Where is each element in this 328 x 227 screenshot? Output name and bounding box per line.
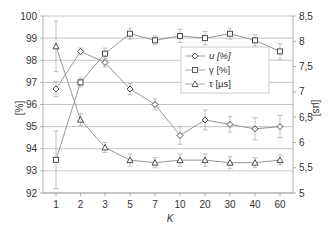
axes: 929394959697989910055,566,577,588,512357…: [20, 11, 313, 211]
x-tick-label: 3: [102, 199, 108, 210]
y-tick-label: 93: [26, 165, 38, 176]
triangle-marker-icon: [53, 43, 59, 49]
square-marker-icon: [128, 31, 133, 36]
y2-tick-label: 5,5: [299, 162, 313, 173]
diamond-marker-icon: [78, 48, 84, 54]
square-marker-icon: [178, 33, 183, 38]
diamond-marker-icon: [202, 117, 208, 123]
y-tick-label: 97: [26, 77, 38, 88]
y-tick-label: 98: [26, 55, 38, 66]
x-tick-label: 20: [199, 199, 211, 210]
x-tick-label: 30: [224, 199, 236, 210]
y-tick-label: 100: [20, 11, 37, 22]
diamond-marker-icon: [277, 124, 283, 130]
series-triangle: [53, 21, 283, 169]
y2-tick-label: 8: [299, 36, 305, 47]
legend-label-gamma: γ [%]: [209, 64, 230, 75]
square-marker-icon: [103, 51, 108, 56]
triangle-marker-icon: [127, 157, 133, 163]
x-tick-label: 5: [127, 199, 133, 210]
x-tick-label: 60: [274, 199, 286, 210]
x-tick-label: 10: [174, 199, 186, 210]
x-tick-label: 40: [249, 199, 261, 210]
legend-label-u: u [%]: [209, 50, 231, 61]
square-marker-icon: [278, 49, 283, 54]
y2-tick-label: 6: [299, 137, 305, 148]
x-axis-label: K: [167, 213, 175, 224]
y2-tick-label: 7,5: [299, 61, 313, 72]
square-marker-icon: [228, 31, 233, 36]
square-marker-icon: [253, 38, 258, 43]
square-marker-icon: [54, 157, 59, 162]
triangle-marker-icon: [78, 117, 84, 123]
y-tick-label: 96: [26, 99, 38, 110]
square-marker-icon: [78, 80, 83, 85]
y-tick-label: 95: [26, 121, 38, 132]
chart: 929394959697989910055,566,577,588,512357…: [0, 0, 328, 227]
y-tick-label: 92: [26, 188, 38, 199]
legend: u [%] γ [%] τ [µs]: [181, 47, 269, 93]
y-tick-label: 99: [26, 33, 38, 44]
diamond-marker-icon: [53, 86, 59, 92]
y-axis-label: [%]: [14, 101, 25, 116]
x-tick-label: 1: [53, 199, 59, 210]
x-tick-label: 2: [78, 199, 84, 210]
y2-tick-label: 5: [299, 188, 305, 199]
legend-label-tau: τ [µs]: [209, 78, 231, 89]
square-marker-icon: [153, 38, 158, 43]
triangle-marker-icon: [277, 157, 283, 163]
x-tick-label: 7: [152, 199, 158, 210]
y-tick-label: 94: [26, 143, 38, 154]
y2-tick-label: 7: [299, 86, 305, 97]
square-marker-icon: [193, 68, 198, 73]
y2-axis-label: [µs]: [311, 100, 322, 117]
y2-tick-label: 8,5: [299, 11, 313, 22]
square-marker-icon: [203, 36, 208, 41]
